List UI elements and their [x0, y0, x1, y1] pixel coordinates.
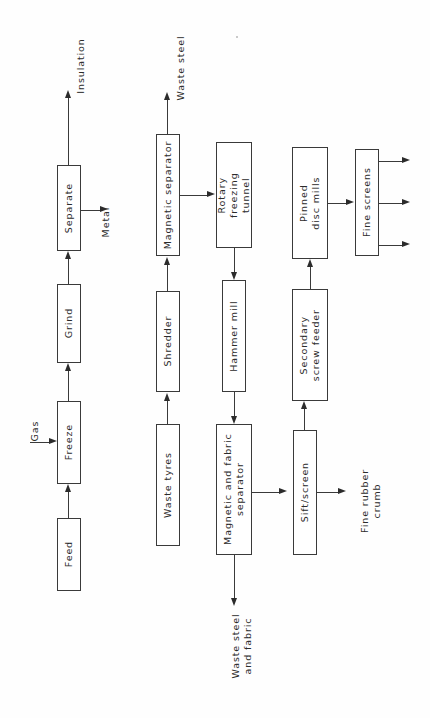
arrowhead-waste-tyres-to-shredder	[164, 393, 170, 401]
arrowhead-separate-to-insulation	[65, 90, 71, 98]
arrowhead-freeze-to-grind	[65, 363, 71, 371]
arrowhead-sift-screen-to-fine-rubber-crumb	[338, 488, 346, 494]
connector-feed-to-freeze	[68, 489, 69, 518]
process-box-magnetic-and-fabric-separator-label: Magnetic and fabric separator	[222, 434, 246, 545]
process-box-magnetic-separator-label: Magnetic separator	[162, 141, 174, 250]
connector-shredder-to-magnetic-separator	[167, 262, 168, 291]
process-box-secondary-screw-feeder[interactable]: Secondary screw feeder	[292, 289, 328, 401]
connector-sift-screen-to-secondary-screw-feeder	[304, 406, 305, 430]
connector-gas-to-freeze	[30, 442, 50, 443]
connector-pinned-disc-mills-to-fine-screens	[328, 203, 347, 204]
connector-magnetic-separator-to-waste-steel	[167, 97, 168, 134]
process-box-hammer-mill-label: Hammer mill	[228, 300, 240, 371]
connector-hammer-mill-to-magnetic-fabric-separator	[234, 392, 235, 416]
connector-magnetic-separator-to-rotary-tunnel	[180, 195, 208, 196]
process-box-pinned-disc-mills[interactable]: Pinned disc mills	[292, 147, 328, 259]
arrowhead-feed-to-freeze	[65, 484, 71, 492]
connector-rotary-tunnel-to-hammer-mill	[234, 248, 235, 272]
arrowhead-magnetic-fabric-separator-to-waste-steel-fabric	[231, 598, 237, 606]
flow-label-fine-rubber-crumb: Fine rubber crumb	[359, 465, 383, 537]
connector-magnetic-fabric-separator-to-waste-steel-fabric	[234, 555, 235, 598]
flow-label-waste-steel: Waste steel	[175, 33, 187, 103]
connector-fine-screens-outlet-1	[379, 161, 403, 162]
process-box-grind-label: Grind	[63, 308, 75, 338]
process-box-rotary-freezing-tunnel-label: Rotary freezing tunnel	[216, 172, 252, 218]
arrowhead-gas-to-freeze	[49, 438, 57, 444]
flow-label-waste-steel-and-fabric: Waste steel and fabric	[230, 610, 254, 682]
arrowhead-rotary-tunnel-to-hammer-mill	[231, 272, 237, 280]
process-box-magnetic-separator[interactable]: Magnetic separator	[156, 134, 180, 256]
arrowhead-sift-screen-to-secondary-screw-feeder	[301, 401, 307, 409]
process-box-separate-label: Separate	[63, 183, 75, 233]
process-box-shredder-label: Shredder	[162, 316, 174, 367]
connector-waste-tyres-to-shredder	[167, 398, 168, 424]
connector-grind-to-separate	[68, 256, 69, 284]
process-box-pinned-disc-mills-label: Pinned disc mills	[298, 177, 322, 230]
process-box-feed[interactable]: Feed	[57, 518, 81, 591]
process-box-feed-label: Feed	[63, 541, 75, 567]
arrowhead-fine-screens-outlet-2	[402, 199, 410, 205]
arrowhead-magnetic-fabric-separator-to-sift-screen	[279, 488, 287, 494]
process-flow-diagram: Feed Freeze Gas Grind Separate Insulatio…	[0, 0, 430, 718]
connector-separate-to-metal	[81, 210, 101, 211]
process-box-separate[interactable]: Separate	[57, 165, 81, 251]
connector-fine-screens-outlet-3	[379, 245, 403, 246]
arrowhead-magnetic-separator-to-waste-steel	[164, 92, 170, 100]
process-box-shredder[interactable]: Shredder	[156, 291, 180, 392]
connector-magnetic-fabric-separator-to-sift-screen	[252, 492, 280, 493]
process-box-sift-screen-label: Sift/screen	[299, 462, 311, 522]
arrowhead-fine-screens-outlet-1	[402, 157, 410, 163]
connector-separate-to-insulation	[68, 95, 69, 165]
arrowhead-hammer-mill-to-magnetic-fabric-separator	[231, 416, 237, 424]
connector-sift-screen-to-fine-rubber-crumb	[317, 492, 339, 493]
arrowhead-pinned-disc-mills-to-fine-screens	[346, 199, 354, 205]
flow-label-metal: Metal	[100, 202, 112, 242]
arrowhead-grind-to-separate	[65, 251, 71, 259]
arrowhead-secondary-screw-feeder-to-pinned-disc-mills	[307, 259, 313, 267]
connector-fine-screens-outlet-2	[379, 203, 403, 204]
connector-freeze-to-grind	[68, 368, 69, 401]
process-box-waste-tyres[interactable]: Waste tyres	[156, 424, 180, 546]
connector-secondary-screw-feeder-to-pinned-disc-mills	[310, 264, 311, 289]
process-box-grind[interactable]: Grind	[57, 284, 81, 363]
process-box-fine-screens[interactable]: Fine screens	[355, 149, 379, 256]
process-box-fine-screens-label: Fine screens	[361, 168, 373, 238]
flow-label-insulation: Insulation	[75, 35, 87, 97]
process-box-freeze[interactable]: Freeze	[57, 401, 81, 484]
process-box-hammer-mill[interactable]: Hammer mill	[222, 280, 246, 392]
arrowhead-magnetic-separator-to-rotary-tunnel	[207, 191, 215, 197]
process-box-sift-screen[interactable]: Sift/screen	[293, 430, 317, 555]
arrowhead-shredder-to-magnetic-separator	[164, 257, 170, 265]
arrowhead-fine-screens-outlet-3	[402, 241, 410, 247]
scan-artifact-speck	[236, 36, 238, 38]
process-box-rotary-freezing-tunnel[interactable]: Rotary freezing tunnel	[216, 142, 252, 248]
process-box-freeze-label: Freeze	[63, 424, 75, 460]
process-box-secondary-screw-feeder-label: Secondary screw feeder	[298, 309, 322, 381]
process-box-magnetic-and-fabric-separator[interactable]: Magnetic and fabric separator	[216, 424, 252, 555]
process-box-waste-tyres-label: Waste tyres	[162, 452, 174, 518]
